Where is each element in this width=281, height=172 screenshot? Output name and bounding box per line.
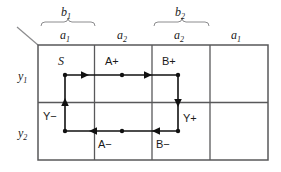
flow-arrow-right-1 bbox=[81, 71, 89, 79]
row-label-y1: y1 bbox=[17, 69, 27, 85]
cell-label-a-plus: A+ bbox=[105, 55, 119, 67]
subcolumn-label-b1-a2: a2 bbox=[117, 28, 127, 44]
transition-label-y-minus: Y− bbox=[43, 110, 57, 122]
flow-node-b-plus bbox=[176, 73, 180, 77]
flow-node-a-plus bbox=[120, 73, 124, 77]
flow-arrow-left-1 bbox=[152, 127, 160, 135]
group-label-b2: b2 bbox=[175, 5, 185, 21]
cell-label-stable-S: S bbox=[58, 54, 64, 68]
flow-arrow-left-2 bbox=[89, 127, 97, 135]
primitive-flow-table-figure: b1 b2 a1 a2 a2 a1 y1 y2 S bbox=[0, 0, 281, 172]
subcolumn-label-b2-a2: a2 bbox=[174, 28, 184, 44]
flow-node-b-minus-corner bbox=[176, 129, 180, 133]
group-label-b1: b1 bbox=[61, 5, 71, 21]
corner-diagonal-divider bbox=[17, 27, 38, 45]
subcolumn-label-b1-a1: a1 bbox=[60, 28, 70, 44]
flow-node-a-minus bbox=[120, 129, 124, 133]
cell-label-b-plus: B+ bbox=[162, 55, 176, 67]
flow-node-return bbox=[63, 129, 67, 133]
subcolumn-label-b2-a1: a1 bbox=[231, 28, 241, 44]
transition-label-y-plus: Y+ bbox=[183, 112, 197, 124]
cell-label-a-minus: A− bbox=[98, 138, 112, 150]
row-label-y2: y2 bbox=[17, 126, 27, 142]
flow-arrow-right-2 bbox=[144, 71, 152, 79]
cell-label-b-minus: B− bbox=[156, 138, 170, 150]
flow-node-s bbox=[63, 73, 67, 77]
